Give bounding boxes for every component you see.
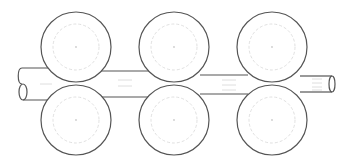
roll-top-1 bbox=[41, 12, 111, 82]
roll-bottom-3 bbox=[237, 85, 307, 155]
roll-bottom-1 bbox=[41, 85, 111, 155]
entry-end-curve bbox=[18, 68, 22, 84]
rolling-mill-diagram bbox=[0, 0, 349, 163]
exit-end-ellipse bbox=[329, 76, 335, 92]
roll-top-2 bbox=[139, 12, 209, 82]
roll-top-3 bbox=[237, 12, 307, 82]
roll-bottom-2 bbox=[139, 85, 209, 155]
